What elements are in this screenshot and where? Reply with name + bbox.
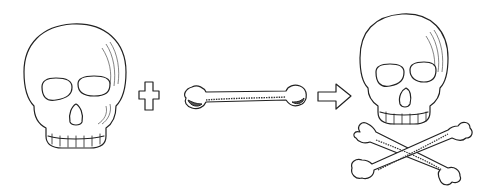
skull-and-crossbones-illustration [342,10,480,188]
plus-sign [138,81,160,111]
skull [360,14,448,124]
plus-icon [138,81,160,111]
skull-illustration [20,20,130,154]
crossbones [352,122,472,184]
bone-icon [182,82,310,110]
skull-icon [20,20,130,154]
skull-and-crossbones-icon [342,10,480,188]
bone-illustration [182,82,310,110]
